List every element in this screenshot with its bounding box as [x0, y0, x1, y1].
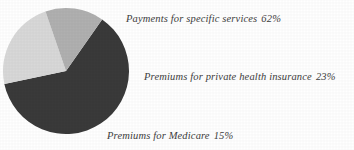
pie-chart-figure: Payments for specific services62% Premiu… [0, 0, 354, 150]
pie-label-value-medicare: 15% [214, 130, 234, 141]
pie-label-value-payments: 62% [261, 13, 281, 24]
pie-label-text-payments: Payments for specific services [126, 13, 257, 24]
pie-label-text-private-health-insurance: Premiums for private health insurance [144, 71, 312, 82]
pie-label-payments-for-specific-services: Payments for specific services62% [126, 13, 281, 25]
pie-label-text-medicare: Premiums for Medicare [107, 130, 210, 141]
pie-label-premiums-for-private-health-insurance: Premiums for private health insurance23% [144, 71, 336, 83]
pie-label-premiums-for-medicare: Premiums for Medicare15% [107, 130, 233, 142]
pie-label-value-private-health-insurance: 23% [316, 71, 336, 82]
